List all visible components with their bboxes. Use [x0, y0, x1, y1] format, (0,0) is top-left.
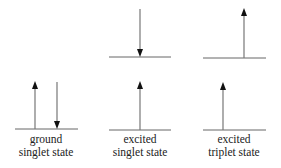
excited-singlet-label: excited singlet state — [95, 133, 185, 159]
spin-down-arrow-icon — [137, 9, 143, 57]
spin-up-arrow-icon — [137, 81, 143, 130]
ground-singlet-state — [15, 81, 78, 129]
excited-triplet-label-line1: excited — [189, 133, 279, 146]
ground-singlet-label-line1: ground — [1, 133, 91, 146]
excited-singlet-label-line2: singlet state — [95, 146, 185, 159]
excited-singlet-label-line1: excited — [95, 133, 185, 146]
spin-up-arrow-icon — [220, 82, 226, 130]
spin-up-arrow-icon — [241, 8, 247, 58]
excited-singlet-state — [109, 9, 171, 130]
excited-triplet-label-line2: triplet state — [189, 146, 279, 159]
excited-triplet-label: excited triplet state — [189, 133, 279, 159]
ground-singlet-label-line2: singlet state — [1, 146, 91, 159]
spin-down-arrow-icon — [54, 82, 60, 129]
spin-up-arrow-icon — [32, 81, 38, 129]
excited-triplet-state — [203, 8, 266, 130]
ground-singlet-label: ground singlet state — [1, 133, 91, 159]
